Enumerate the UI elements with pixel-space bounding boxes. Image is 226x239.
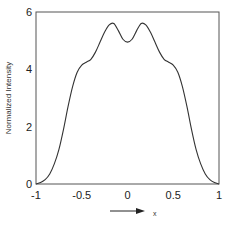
intensity-curve xyxy=(36,23,219,184)
x-direction-arrow-icon xyxy=(110,208,145,214)
x-tick-label: 0.5 xyxy=(166,189,181,201)
y-tick-label: 4 xyxy=(26,63,32,75)
x-tick-label: 1 xyxy=(216,189,222,201)
y-tick-label: 2 xyxy=(26,121,32,133)
y-axis-label: Normalized Intensity xyxy=(4,62,13,134)
x-axis-label: x xyxy=(153,210,157,217)
y-tick-label: 6 xyxy=(26,6,32,18)
x-tick-label: -0.5 xyxy=(72,189,91,201)
line-chart: 0246 -1-0.500.51 Normalized Intensity x xyxy=(0,0,226,239)
x-tick-label: -1 xyxy=(31,189,41,201)
x-tick-label: 0 xyxy=(124,189,130,201)
x-axis-ticks: -1-0.500.51 xyxy=(31,189,222,201)
y-axis-ticks: 0246 xyxy=(26,6,32,190)
plot-frame xyxy=(36,12,219,184)
